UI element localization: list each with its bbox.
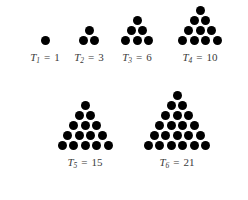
dot: [90, 36, 99, 45]
dot-cluster-t3: [106, 16, 168, 45]
caption-equals: =: [43, 51, 52, 63]
dot: [144, 36, 153, 45]
dot: [92, 121, 101, 130]
dot: [121, 36, 130, 45]
dot: [155, 121, 164, 130]
caption-subscript: 6: [166, 161, 170, 170]
dot: [138, 26, 147, 35]
dot: [190, 141, 199, 150]
dot: [201, 16, 210, 25]
dot: [127, 26, 136, 35]
triangle-group-t4: T4 = 10: [163, 6, 237, 45]
caption-symbol: T: [182, 51, 188, 63]
caption-symbol: T: [67, 156, 73, 168]
dot: [196, 6, 205, 15]
dot: [173, 111, 182, 120]
dot: [190, 36, 199, 45]
dot: [178, 36, 187, 45]
dot: [178, 121, 187, 130]
dot: [104, 141, 113, 150]
dot: [133, 16, 142, 25]
dot: [184, 26, 193, 35]
dot: [63, 131, 72, 140]
caption-value: 3: [98, 51, 104, 63]
dot: [196, 26, 205, 35]
dot: [98, 131, 107, 140]
dot-cluster-t5: [39, 101, 131, 150]
dot: [167, 121, 176, 130]
dot: [81, 141, 90, 150]
dot: [69, 141, 78, 150]
dot: [155, 141, 164, 150]
dot: [81, 121, 90, 130]
dot: [85, 26, 94, 35]
triangular-numbers-figure: T1 = 1T2 = 3T3 = 6T4 = 10T5 = 15T6 = 21: [0, 0, 248, 200]
triangle-group-t6: T6 = 21: [128, 91, 226, 150]
caption-equals: =: [195, 51, 204, 63]
caption-value: 21: [184, 156, 195, 168]
dot: [173, 131, 182, 140]
caption-equals: =: [172, 156, 181, 168]
caption-value: 10: [207, 51, 218, 63]
dot: [150, 131, 159, 140]
dot: [69, 121, 78, 130]
caption-equals: =: [87, 51, 96, 63]
dot: [196, 131, 205, 140]
dot: [161, 131, 170, 140]
dot: [201, 36, 210, 45]
dot: [178, 141, 187, 150]
dot: [75, 131, 84, 140]
dot-cluster-t6: [128, 91, 226, 150]
caption-equals: =: [80, 156, 89, 168]
triangle-caption-t4: T4 = 10: [163, 52, 237, 63]
dot: [167, 101, 176, 110]
dot: [86, 131, 95, 140]
dot: [190, 121, 199, 130]
dot-cluster-t4: [163, 6, 237, 45]
dot: [79, 36, 88, 45]
dot: [92, 141, 101, 150]
dot: [184, 111, 193, 120]
dot: [144, 141, 153, 150]
dot: [178, 101, 187, 110]
dot: [161, 111, 170, 120]
dot: [201, 141, 210, 150]
triangle-caption-t6: T6 = 21: [128, 157, 226, 168]
caption-symbol: T: [159, 156, 165, 168]
triangle-group-t5: T5 = 15: [39, 101, 131, 150]
dot: [58, 141, 67, 150]
caption-value: 1: [54, 51, 60, 63]
dot: [213, 36, 222, 45]
dot: [86, 111, 95, 120]
dot: [207, 26, 216, 35]
triangle-group-t3: T3 = 6: [106, 16, 168, 45]
caption-value: 6: [146, 51, 152, 63]
caption-subscript: 1: [36, 56, 40, 65]
dot: [81, 101, 90, 110]
dot: [133, 36, 142, 45]
dot: [75, 111, 84, 120]
caption-subscript: 3: [128, 56, 132, 65]
caption-subscript: 4: [189, 56, 193, 65]
triangle-caption-t5: T5 = 15: [39, 157, 131, 168]
caption-value: 15: [92, 156, 103, 168]
caption-subscript: 5: [74, 161, 78, 170]
caption-subscript: 2: [80, 56, 84, 65]
dot: [41, 36, 50, 45]
dot: [173, 91, 182, 100]
dot: [184, 131, 193, 140]
caption-equals: =: [135, 51, 144, 63]
triangle-caption-t3: T3 = 6: [106, 52, 168, 63]
dot: [190, 16, 199, 25]
dot: [167, 141, 176, 150]
